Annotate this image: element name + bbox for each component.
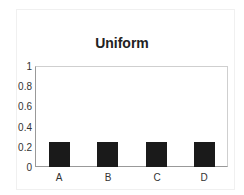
x-label: B [97,172,119,183]
bar-c [146,142,167,167]
chart-title: Uniform [0,35,244,51]
bar-d [194,142,215,167]
bar-b [97,142,118,167]
y-tick: 0.2 [18,142,32,153]
y-tick: 0 [26,162,32,173]
bar-a [49,142,70,167]
x-label: C [146,172,168,183]
x-label: D [193,172,215,183]
y-tick: 1 [26,61,32,72]
y-tick: 0.4 [18,122,32,133]
y-tick: 0.6 [18,101,32,112]
y-tick: 0.8 [18,81,32,92]
x-label: A [48,172,70,183]
